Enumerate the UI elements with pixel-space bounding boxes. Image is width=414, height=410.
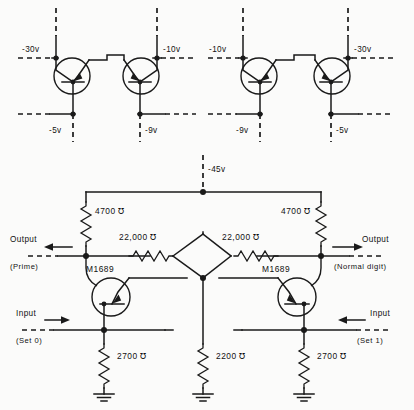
transistor-envelope-right bbox=[123, 58, 159, 94]
top-left-stage: -30v -10v -5v -9v bbox=[18, 8, 196, 142]
label-resistor-22000-left: 22,000 ℧ bbox=[119, 232, 157, 242]
label-top-left-right-emitter: -9v bbox=[145, 126, 158, 135]
label-resistor-4700-left: 4700 ℧ bbox=[95, 206, 125, 216]
resistor-2700-left bbox=[99, 344, 109, 388]
input-right-arrowhead bbox=[338, 316, 347, 323]
emitter-arrow-left bbox=[261, 73, 270, 82]
label-input-right-sub: (Set 1) bbox=[357, 336, 383, 345]
cross-wire-b-lower bbox=[203, 256, 231, 278]
interstage-link-left bbox=[89, 55, 124, 60]
label-input-left: Input bbox=[16, 309, 37, 318]
emitter-arrow-right bbox=[131, 73, 140, 82]
label-top-right-right-supply: -30v bbox=[354, 45, 372, 54]
transistor-envelope-right bbox=[314, 58, 350, 94]
output-left-arrowhead bbox=[44, 243, 53, 250]
label-transistor-left: M1689 bbox=[86, 264, 114, 274]
label-top-left-right-supply: -10v bbox=[163, 45, 181, 54]
collector-lead-left bbox=[243, 58, 260, 82]
ground-symbol-center bbox=[193, 394, 213, 401]
main-flipflop-circuit: -45v 4700 ℧ 4700 ℧ O bbox=[10, 155, 391, 401]
ground-symbol-right bbox=[294, 394, 314, 401]
emitter-arrow-right bbox=[322, 73, 331, 82]
label-resistor-2200-center: 2200 ℧ bbox=[216, 351, 246, 361]
label-resistor-4700-right: 4700 ℧ bbox=[281, 206, 311, 216]
collector-lead-right bbox=[140, 58, 157, 82]
input-left-arrowhead bbox=[61, 316, 70, 323]
circuit-diagram: -30v -10v -5v -9v bbox=[0, 0, 414, 410]
transistor-envelope-left bbox=[241, 58, 277, 94]
label-top-right-right-emitter: -5v bbox=[336, 126, 349, 135]
resistor-2700-right bbox=[299, 344, 309, 388]
label-resistor-22000-right: 22,000 ℧ bbox=[222, 232, 260, 242]
label-top-right-left-emitter: -9v bbox=[236, 126, 249, 135]
top-right-stage: -10v -30v -9v -5v bbox=[208, 8, 394, 142]
junction-dot bbox=[71, 80, 76, 85]
label-top-left-left-emitter: -5v bbox=[49, 126, 62, 135]
label-supply-minus45: -45v bbox=[208, 165, 226, 174]
ground-symbol-left bbox=[94, 394, 114, 401]
schematic-sheet: -30v -10v -5v -9v bbox=[0, 0, 414, 410]
label-resistor-2700-right: 2700 ℧ bbox=[317, 351, 347, 361]
base-curve-right bbox=[311, 256, 321, 286]
label-top-right-left-supply: -10v bbox=[209, 45, 227, 54]
output-right-arrowhead bbox=[354, 243, 363, 250]
emitter-arrow-left bbox=[74, 73, 83, 82]
cross-wire-a-lower bbox=[173, 256, 203, 278]
label-input-left-sub: (Set 0) bbox=[16, 336, 42, 345]
junction-dot bbox=[200, 189, 206, 195]
label-output-right-sub: (Normal digit) bbox=[334, 262, 387, 271]
label-input-right: Input bbox=[370, 309, 391, 318]
resistor-2200-center bbox=[198, 344, 208, 388]
junction-dot bbox=[138, 80, 143, 85]
junction-dot bbox=[258, 80, 263, 85]
resistor-4700-right bbox=[316, 202, 326, 246]
junction-dot bbox=[329, 80, 334, 85]
label-output-left-sub: (Prime) bbox=[10, 262, 38, 271]
label-output-right: Output bbox=[362, 235, 389, 244]
interstage-link-right bbox=[276, 55, 315, 60]
label-resistor-2700-left: 2700 ℧ bbox=[117, 351, 147, 361]
label-top-left-left-supply: -30v bbox=[22, 45, 40, 54]
label-transistor-right: M1689 bbox=[262, 264, 290, 274]
label-output-left: Output bbox=[10, 235, 37, 244]
resistor-4700-left bbox=[81, 202, 91, 246]
transistor-envelope-left bbox=[54, 58, 90, 94]
transistor-envelope-right bbox=[278, 278, 316, 316]
junction-dot bbox=[102, 302, 107, 307]
collector-lead-right bbox=[331, 58, 348, 82]
collector-lead-left bbox=[56, 58, 73, 82]
junction-dot bbox=[302, 302, 307, 307]
cross-wire-a-upper bbox=[173, 234, 203, 256]
